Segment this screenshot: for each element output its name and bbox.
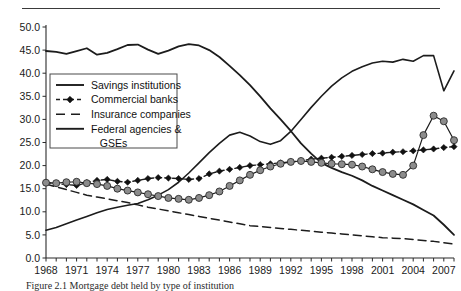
series-marker-circle: [287, 158, 294, 165]
series-marker-diamond: [125, 179, 131, 185]
series-marker-diamond: [216, 168, 222, 174]
series-line-insurance-companies: [46, 184, 454, 244]
legend-label: Savings institutions: [91, 79, 181, 91]
series-marker-circle: [165, 194, 172, 201]
series-marker-diamond: [420, 147, 426, 153]
x-tick-label: 1992: [279, 264, 303, 276]
x-tick-label: 1998: [340, 264, 364, 276]
series-marker-diamond: [196, 175, 202, 181]
series-marker-circle: [226, 182, 233, 189]
series-marker-diamond: [135, 177, 141, 183]
legend-label: Federal agencies &: [91, 123, 181, 135]
series-marker-diamond: [206, 171, 212, 177]
y-tick-label: 45.0: [20, 44, 41, 56]
y-tick-label: 15.0: [20, 182, 41, 194]
series-marker-circle: [328, 160, 335, 167]
series-marker-diamond: [237, 164, 243, 170]
series-marker-circle: [338, 161, 345, 168]
series-marker-diamond: [451, 144, 457, 150]
y-tick-label: 40.0: [20, 67, 41, 79]
series-marker-circle: [73, 178, 80, 185]
series-marker-circle: [185, 196, 192, 203]
series-marker-circle: [451, 137, 458, 144]
y-tick-label: 5.0: [25, 229, 40, 241]
y-tick-label: 30.0: [20, 113, 41, 125]
y-tick-label: 10.0: [20, 205, 41, 217]
x-tick-label: 1974: [96, 264, 120, 276]
series-marker-circle: [430, 112, 437, 119]
series-marker-diamond: [349, 152, 355, 158]
x-tick-label: 1980: [157, 264, 181, 276]
series-marker-diamond: [104, 176, 110, 182]
x-tick-label: 1989: [249, 264, 273, 276]
series-marker-diamond: [186, 176, 192, 182]
series-marker-circle: [124, 187, 131, 194]
series-marker-diamond: [380, 150, 386, 156]
series-marker-circle: [175, 195, 182, 202]
y-tick-label: 25.0: [20, 136, 41, 148]
series-marker-circle: [216, 188, 223, 195]
series-marker-diamond: [114, 178, 120, 184]
series-marker-circle: [318, 159, 325, 166]
series-marker-circle: [298, 157, 305, 164]
series-marker-diamond: [165, 175, 171, 181]
x-tick-label: 2007: [432, 264, 456, 276]
series-marker-diamond: [155, 175, 161, 181]
series-marker-circle: [389, 170, 396, 177]
series-marker-diamond: [400, 149, 406, 155]
series-marker-circle: [196, 194, 203, 201]
series-marker-diamond: [227, 166, 233, 172]
series-marker-diamond: [145, 175, 151, 181]
series-marker-circle: [440, 118, 447, 125]
x-tick-label: 2001: [371, 264, 395, 276]
legend-label: Commercial banks: [91, 93, 178, 105]
series-marker-circle: [114, 185, 121, 192]
series-marker-circle: [379, 169, 386, 176]
series-marker-circle: [43, 179, 50, 186]
series-marker-diamond: [390, 149, 396, 155]
series-marker-circle: [155, 193, 162, 200]
x-tick-label: 1968: [34, 264, 58, 276]
series-marker-diamond: [247, 163, 253, 169]
series-marker-circle: [104, 182, 111, 189]
x-tick-label: 1971: [65, 264, 89, 276]
series-marker-circle: [83, 180, 90, 187]
series-marker-circle: [369, 166, 376, 173]
series-marker-diamond: [431, 146, 437, 152]
series-marker-circle: [400, 171, 407, 178]
series-marker-circle: [349, 161, 356, 168]
y-tick-label: 50.0: [20, 21, 41, 33]
series-marker-diamond: [441, 144, 447, 150]
series-marker-circle: [145, 191, 152, 198]
series-marker-circle: [53, 180, 60, 187]
y-tick-label: 35.0: [20, 90, 41, 102]
y-tick-label: 20.0: [20, 159, 41, 171]
series-marker-circle: [247, 171, 254, 178]
figure-caption: Figure 2.1 Mortgage debt held by type of…: [26, 280, 234, 291]
series-marker-circle: [94, 181, 101, 188]
series-marker-circle: [134, 189, 141, 196]
legend-label: GSEs: [100, 137, 127, 149]
legend-label: Insurance companies: [91, 108, 191, 120]
series-marker-circle: [359, 163, 366, 170]
series-marker-diamond: [369, 150, 375, 156]
x-tick-label: 1995: [310, 264, 334, 276]
series-marker-diamond: [339, 153, 345, 159]
series-marker-circle: [257, 167, 264, 174]
y-tick-label: 0.0: [25, 252, 40, 264]
series-marker-circle: [308, 158, 315, 165]
x-tick-label: 1977: [126, 264, 150, 276]
series-marker-diamond: [410, 148, 416, 154]
series-marker-diamond: [329, 154, 335, 160]
x-tick-label: 1986: [218, 264, 242, 276]
x-tick-label: 2004: [402, 264, 426, 276]
series-marker-circle: [206, 192, 213, 199]
x-tick-label: 1983: [187, 264, 211, 276]
series-marker-circle: [267, 163, 274, 170]
series-marker-circle: [277, 160, 284, 167]
series-marker-circle: [63, 179, 70, 186]
series-marker-diamond: [359, 151, 365, 157]
series-marker-circle: [420, 132, 427, 139]
